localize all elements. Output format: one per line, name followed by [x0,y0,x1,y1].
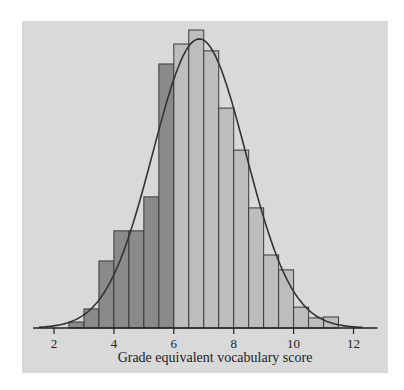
x-axis-label: Grade equivalent vocabulary score [118,350,313,365]
histogram-bar [144,197,159,328]
histogram-bar [294,307,309,328]
histogram-bar [234,150,249,328]
histogram-bar [189,30,204,328]
x-tick-label: 4 [111,336,118,351]
histogram-bar [129,231,144,328]
x-tick-label: 12 [347,336,360,351]
histogram-bar [174,44,189,328]
histogram-bar [114,231,129,328]
x-tick-label: 2 [51,336,58,351]
x-tick-label: 10 [287,336,300,351]
histogram-bar [249,208,264,328]
histogram-bar [99,261,114,328]
histogram-bar [84,309,99,328]
x-tick-label: 6 [171,336,178,351]
histogram-chart: 24681012 Grade equivalent vocabulary sco… [0,0,404,390]
histogram-bar [219,108,234,328]
histogram-bar [204,51,219,328]
histogram-bar [264,255,279,328]
x-tick-label: 8 [230,336,237,351]
histogram-bar [69,322,84,328]
